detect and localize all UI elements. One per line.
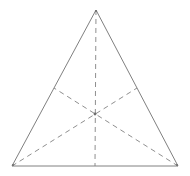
- triangle-medians-diagram: [0, 0, 190, 176]
- figure-canvas: [0, 0, 190, 176]
- vertex-apex-marker: [95, 10, 97, 12]
- vertex-bottom-left-marker: [12, 164, 14, 166]
- centroid-marker: [94, 113, 97, 116]
- vertex-bottom-right-marker: [176, 164, 178, 166]
